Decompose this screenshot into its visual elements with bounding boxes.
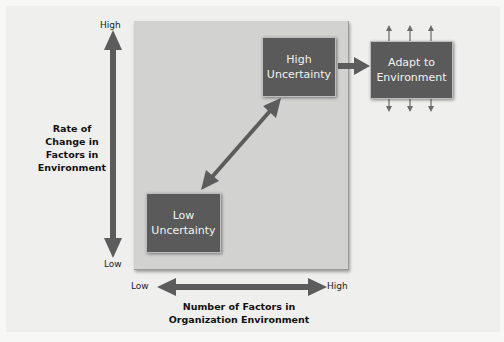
y-axis-low-label: Low [104,259,122,269]
adapt-to-environment-box: Adapt to Environment [370,41,453,99]
box-label-line: Low [173,208,195,223]
box-label-line: Environment [376,70,446,85]
low-uncertainty-box: Low Uncertainty [146,193,221,253]
adapt-arrow [338,57,370,75]
y-axis-title-line: Factors in [30,148,114,161]
box-label-line: Uncertainty [151,223,215,238]
high-uncertainty-box: High Uncertainty [262,37,336,97]
x-axis-high-label: High [327,281,348,291]
box-label-line: Adapt to [388,55,435,70]
y-axis-title-line: Change in [30,135,114,148]
box-label-line: Uncertainty [267,67,331,82]
y-axis-high-label: High [100,20,121,30]
y-axis-title: Rate of Change in Factors in Environment [30,122,114,174]
box-label-line: High [286,52,311,67]
x-axis-title-line: Number of Factors in [158,300,320,313]
y-axis-title-line: Rate of [30,122,114,135]
y-axis-title-line: Environment [30,161,114,174]
x-axis-title: Number of Factors in Organization Enviro… [158,300,320,326]
x-axis-title-line: Organization Environment [158,313,320,326]
horizontal-axis-arrow [157,278,327,296]
diagonal-double-arrow [201,98,281,190]
x-axis-low-label: Low [131,281,149,291]
